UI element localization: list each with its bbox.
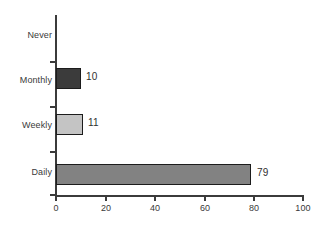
bar-daily — [56, 164, 251, 185]
bar-weekly — [56, 114, 83, 135]
y-axis-label-never: Never — [0, 30, 52, 41]
y-axis-label-daily: Daily — [0, 167, 52, 178]
x-axis-tick-label-60: 60 — [189, 203, 221, 214]
x-axis-line — [55, 195, 304, 197]
bar-value-monthly: 10 — [86, 71, 97, 83]
y-axis-label-weekly: Weekly — [0, 120, 52, 131]
x-axis-tick-label-80: 80 — [238, 203, 270, 214]
y-axis-tick — [50, 151, 56, 153]
x-axis-tick — [204, 196, 206, 201]
x-axis-tick — [154, 196, 156, 201]
x-axis-tick-label-40: 40 — [139, 203, 171, 214]
x-axis-tick — [302, 196, 304, 201]
x-axis-tick — [253, 196, 255, 201]
x-axis-tick — [105, 196, 107, 201]
bar-value-weekly: 11 — [88, 117, 99, 129]
y-axis-label-monthly: Monthly — [0, 75, 52, 86]
bar-value-daily: 79 — [257, 167, 268, 179]
x-axis-tick — [55, 196, 57, 201]
bar-monthly — [56, 68, 81, 89]
x-axis-tick-label-0: 0 — [40, 203, 72, 214]
y-axis-tick — [50, 106, 56, 108]
x-axis-tick-label-100: 100 — [287, 203, 319, 214]
bar-chart: 0 20 40 60 80 100 Never Monthly Weekly D… — [0, 0, 328, 227]
y-axis-tick — [50, 61, 56, 63]
x-axis-tick-label-20: 20 — [90, 203, 122, 214]
